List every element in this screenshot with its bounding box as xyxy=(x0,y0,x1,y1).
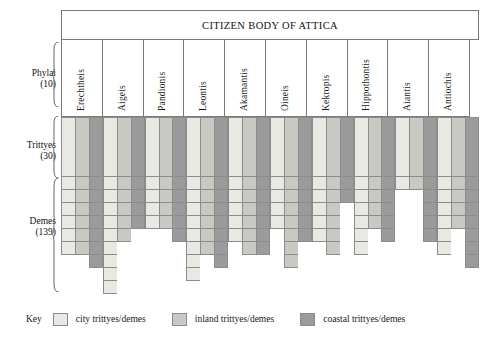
legend-item-label: city trittyes/demes xyxy=(76,314,146,324)
deme-cell xyxy=(75,216,89,229)
deme-cell xyxy=(354,177,368,190)
phyle-name-label: Erechtheis xyxy=(76,69,86,111)
city-swatch xyxy=(53,313,68,326)
phyle-name-label: Aiantis xyxy=(402,82,412,111)
phyle-column-hippothontis xyxy=(354,117,396,292)
title-box: CITIZEN BODY OF ATTICA xyxy=(61,10,479,40)
deme-cell xyxy=(284,177,298,190)
phyle-column-aigeis xyxy=(103,117,145,292)
trittys-column-city xyxy=(437,117,451,292)
trittys-block-inland xyxy=(75,117,89,177)
brace-phylai xyxy=(52,42,59,107)
deme-cell xyxy=(200,203,214,216)
deme-cell xyxy=(270,216,284,229)
deme-cell xyxy=(89,190,103,203)
deme-cell xyxy=(117,216,131,229)
deme-stack-city xyxy=(270,177,284,229)
deme-cell xyxy=(228,203,242,216)
deme-cell xyxy=(214,216,228,229)
legend-item-label: coastal trittyes/demes xyxy=(323,314,405,324)
phyle-name-label: Akamantis xyxy=(239,68,249,111)
deme-stack-inland xyxy=(159,177,173,229)
trittys-column-coastal xyxy=(256,117,270,292)
phyle-column-erechtheis xyxy=(61,117,103,292)
deme-cell xyxy=(186,255,200,268)
trittys-block-inland xyxy=(326,117,340,177)
trittys-block-city xyxy=(270,117,284,177)
deme-cell xyxy=(312,190,326,203)
deme-cell xyxy=(75,203,89,216)
trittys-column-city xyxy=(145,117,159,292)
trittys-column-city xyxy=(354,117,368,292)
trittys-block-inland xyxy=(242,117,256,177)
deme-cell xyxy=(465,190,479,203)
trittys-block-coastal xyxy=(131,117,145,177)
deme-cell xyxy=(242,216,256,229)
deme-cell xyxy=(145,190,159,203)
deme-cell xyxy=(354,242,368,255)
deme-cell xyxy=(326,216,340,229)
deme-cell xyxy=(186,203,200,216)
trittys-block-city xyxy=(145,117,159,177)
trittys-block-city xyxy=(228,117,242,177)
deme-cell xyxy=(326,242,340,255)
deme-stack-inland xyxy=(200,177,214,255)
deme-cell xyxy=(437,190,451,203)
phyle-column-leontis xyxy=(186,117,228,292)
trittys-block-city xyxy=(437,117,451,177)
phyle-header-erechtheis: Erechtheis xyxy=(61,40,103,117)
deme-cell xyxy=(312,216,326,229)
deme-cell xyxy=(395,177,409,190)
deme-cell xyxy=(131,190,145,203)
phyle-header-pandionis: Pandionis xyxy=(143,40,185,117)
trittys-column-inland xyxy=(284,117,298,292)
trittys-block-coastal xyxy=(214,117,228,177)
phyle-header-kekropis: Kekropis xyxy=(306,40,348,117)
trittys-column-inland xyxy=(451,117,465,292)
deme-cell xyxy=(103,216,117,229)
deme-cell xyxy=(117,190,131,203)
chart-frame: CITIZEN BODY OF ATTICA ErechtheisAigeisP… xyxy=(61,10,479,292)
deme-cell xyxy=(145,203,159,216)
deme-cell xyxy=(256,216,270,229)
diagram-canvas: Phylai (10) Trittyes (30) Demes (139) CI… xyxy=(0,0,490,344)
deme-cell xyxy=(103,281,117,294)
deme-cell xyxy=(465,216,479,229)
trittys-block-city xyxy=(103,117,117,177)
deme-cell xyxy=(437,216,451,229)
deme-stack-coastal xyxy=(172,177,186,242)
trittys-block-city xyxy=(354,117,368,177)
deme-stack-coastal xyxy=(256,177,270,255)
deme-cell xyxy=(89,203,103,216)
trittys-block-inland xyxy=(409,117,423,177)
trittys-column-coastal xyxy=(131,117,145,292)
deme-cell xyxy=(61,216,75,229)
deme-cell xyxy=(159,216,173,229)
trittys-block-city xyxy=(61,117,75,177)
deme-cell xyxy=(214,242,228,255)
trittys-block-inland xyxy=(117,117,131,177)
deme-cell xyxy=(186,229,200,242)
deme-cell xyxy=(270,190,284,203)
deme-cell xyxy=(312,177,326,190)
deme-cell xyxy=(423,190,437,203)
deme-cell xyxy=(368,190,382,203)
deme-cell xyxy=(298,216,312,229)
brace-trittyes xyxy=(52,116,59,178)
deme-cell xyxy=(214,190,228,203)
deme-cell xyxy=(172,216,186,229)
trittys-block-city xyxy=(312,117,326,177)
deme-cell xyxy=(186,268,200,281)
deme-cell xyxy=(200,229,214,242)
deme-cell xyxy=(200,177,214,190)
legend-label: Key xyxy=(26,314,42,324)
deme-cell xyxy=(381,203,395,216)
deme-cell xyxy=(89,242,103,255)
trittys-column-coastal xyxy=(214,117,228,292)
deme-cell xyxy=(172,190,186,203)
deme-stack-inland xyxy=(368,177,382,229)
deme-cell xyxy=(103,255,117,268)
trittys-block-coastal xyxy=(298,117,312,177)
deme-stack-coastal xyxy=(381,177,395,242)
trittys-column-coastal xyxy=(298,117,312,292)
